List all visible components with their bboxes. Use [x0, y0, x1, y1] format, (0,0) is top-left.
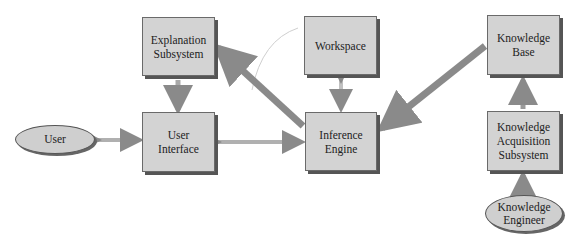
knowledge-base-node: Knowledge Base: [487, 15, 560, 75]
edge-ie-exp: [218, 48, 303, 126]
inference-engine-node: Inference Engine: [305, 112, 377, 171]
node-label: User Interface: [158, 128, 199, 156]
node-label: Knowledge Base: [497, 31, 550, 59]
workspace-node: Workspace: [304, 16, 377, 75]
knowledge-engineer-node: Knowledge Engineer: [485, 195, 563, 232]
node-label: Explanation Subsystem: [151, 33, 207, 61]
node-label: Knowledge Acquisition Subsystem: [497, 120, 551, 162]
node-label: Workspace: [315, 39, 366, 53]
decorative-curve: [252, 28, 298, 90]
node-label: Knowledge Engineer: [497, 201, 550, 227]
explanation-subsystem-node: Explanation Subsystem: [142, 17, 215, 76]
edge-kb-ie: [382, 46, 485, 128]
knowledge-acquisition-subsystem-node: Knowledge Acquisition Subsystem: [487, 111, 560, 171]
node-label: User: [44, 133, 66, 146]
node-label: Inference Engine: [319, 128, 362, 156]
user-node: User: [15, 125, 95, 154]
user-interface-node: User Interface: [142, 112, 215, 172]
